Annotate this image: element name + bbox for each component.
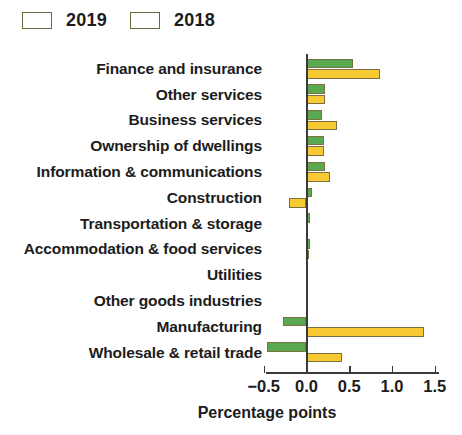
bar-2019-11 — [283, 317, 307, 327]
x-axis-label: Percentage points — [0, 404, 462, 422]
x-tick-label: 1.5 — [423, 377, 446, 396]
bar-row: Ownership of dwellings — [0, 133, 462, 159]
x-tick-mark — [307, 366, 308, 373]
bar-group — [0, 314, 462, 340]
bar-row: Construction — [0, 185, 462, 211]
bar-2019-4 — [307, 136, 324, 146]
bar-row: Utilities — [0, 262, 462, 288]
legend-swatch-yellow-icon — [130, 12, 160, 29]
bar-2018-1 — [307, 69, 381, 79]
bar-group — [0, 82, 462, 108]
bar-2018-2 — [307, 95, 326, 105]
zero-axis-line — [306, 54, 308, 372]
bar-2019-1 — [307, 59, 353, 69]
bar-2018-11 — [307, 327, 425, 337]
bar-group — [0, 262, 462, 288]
legend-entry-2019: 2019 — [22, 10, 107, 31]
x-tick-mark — [349, 366, 350, 373]
bar-group — [0, 340, 462, 366]
bar-2018-12 — [307, 353, 342, 363]
bar-2018-6 — [289, 198, 307, 208]
bar-2018-5 — [307, 172, 331, 182]
bar-row: Finance and insurance — [0, 56, 462, 82]
bar-group — [0, 288, 462, 314]
bar-group — [0, 211, 462, 237]
legend-entry-2018: 2018 — [130, 10, 215, 31]
bar-row: Accommodation & food services — [0, 237, 462, 263]
bar-2018-4 — [307, 146, 324, 156]
x-tick-mark — [392, 366, 393, 373]
chart-legend: 2019 2018 — [0, 0, 462, 46]
bar-2018-3 — [307, 121, 338, 131]
legend-label-2018: 2018 — [174, 10, 215, 31]
bar-group — [0, 237, 462, 263]
bar-row: Transportation & storage — [0, 211, 462, 237]
bar-group — [0, 108, 462, 134]
x-tick-mark — [264, 366, 265, 373]
bar-row: Information & communications — [0, 159, 462, 185]
x-tick-label: 0.0 — [295, 377, 318, 396]
bar-2019-12 — [267, 342, 306, 352]
x-tick-label: 0.5 — [338, 377, 361, 396]
legend-label-2019: 2019 — [66, 10, 107, 31]
plot-area: Finance and insuranceOther servicesBusin… — [0, 52, 462, 372]
x-tick-label: 1.0 — [381, 377, 404, 396]
legend-swatch-green-icon — [22, 12, 52, 29]
bar-row: Wholesale & retail trade — [0, 340, 462, 366]
x-axis-line — [266, 372, 439, 374]
bar-chart: Finance and insuranceOther servicesBusin… — [0, 52, 462, 435]
bar-group — [0, 133, 462, 159]
bar-2019-2 — [307, 84, 326, 94]
x-tick-label: −0.5 — [247, 377, 280, 396]
bar-group — [0, 159, 462, 185]
bar-group — [0, 56, 462, 82]
bar-2019-5 — [307, 162, 326, 172]
bar-row: Business services — [0, 108, 462, 134]
bar-2019-3 — [307, 110, 322, 120]
bar-row: Manufacturing — [0, 314, 462, 340]
bar-row: Other goods industries — [0, 288, 462, 314]
x-tick-mark — [435, 366, 436, 373]
bar-group — [0, 185, 462, 211]
bar-row: Other services — [0, 82, 462, 108]
